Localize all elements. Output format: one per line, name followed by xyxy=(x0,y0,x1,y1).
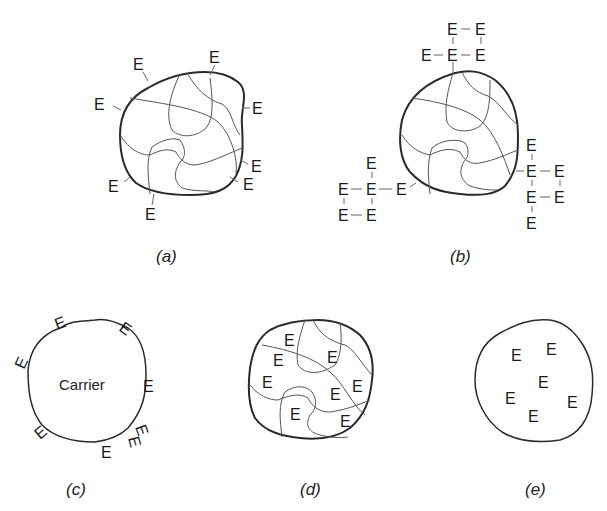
panel-caption: (c) xyxy=(66,480,86,499)
enzyme-label: E xyxy=(421,47,432,64)
enzyme-label: E xyxy=(101,444,112,461)
enzyme-label: E xyxy=(447,21,458,38)
enzyme-label: E xyxy=(209,49,220,66)
enzyme-label: E xyxy=(262,374,273,391)
enzyme-label: E xyxy=(475,21,486,38)
enzyme-label: E xyxy=(133,56,144,73)
panel-d: E E E E E E E E (d) xyxy=(249,320,373,499)
enzyme-label: E xyxy=(338,207,349,224)
panel-caption: (a) xyxy=(156,247,177,266)
enzyme-label: E xyxy=(526,137,537,154)
enzyme-label: E xyxy=(116,319,134,339)
panel-c: Carrier E E E E E E E E (c) xyxy=(11,313,153,499)
enzyme-label: E xyxy=(366,207,377,224)
enzyme-label: E xyxy=(284,332,295,349)
enzyme-aggregate-right: E E E E E E xyxy=(516,137,565,232)
enzyme-label: E xyxy=(554,189,565,206)
enzyme-label: E xyxy=(396,181,407,198)
crosslink-network xyxy=(120,73,242,194)
encapsulated-enzymes: E E E E E E xyxy=(505,341,578,425)
enzyme-aggregate-left: E E E E E E xyxy=(338,155,416,224)
enzyme-label: E xyxy=(511,347,522,364)
enzyme-label: E xyxy=(273,352,284,369)
enzyme-label: E xyxy=(447,47,458,64)
enzyme-label: E xyxy=(327,349,338,366)
panel-caption: (e) xyxy=(525,480,546,499)
panel-b: E E E E E E E E E E E E xyxy=(338,21,565,266)
enzyme-aggregate-top: E E E E E xyxy=(421,21,486,73)
enzyme-label: E xyxy=(31,422,50,442)
enzyme-label: E xyxy=(340,413,351,430)
enzyme-label: E xyxy=(108,178,119,195)
enzyme-label: E xyxy=(366,155,377,172)
panel-e: E E E E E E (e) xyxy=(475,320,593,499)
enzyme-label: E xyxy=(554,163,565,180)
enzyme-label: E xyxy=(475,47,486,64)
enzyme-label: E xyxy=(526,189,537,206)
carrier-outline xyxy=(400,71,518,195)
enzyme-label: E xyxy=(94,96,105,113)
panel-caption: (d) xyxy=(300,480,321,499)
enzyme-label: E xyxy=(528,408,539,425)
enzyme-label: E xyxy=(567,394,578,411)
enzyme-label: E xyxy=(526,215,537,232)
enzyme-label: E xyxy=(366,181,377,198)
panel-a: E E E E E E E E (a) xyxy=(94,49,263,266)
enzyme-label: E xyxy=(143,378,154,395)
enzyme-label: E xyxy=(290,406,301,423)
enzyme-label: E xyxy=(505,390,516,407)
enzyme-label: E xyxy=(546,341,557,358)
enzyme-label: E xyxy=(125,434,144,449)
enzyme-label: E xyxy=(243,176,254,193)
enzyme-label: E xyxy=(538,374,549,391)
crosslink-network xyxy=(402,72,518,194)
enzyme-label: E xyxy=(252,100,263,117)
enzyme-label: E xyxy=(338,181,349,198)
enzyme-label: E xyxy=(145,206,156,223)
enzyme-label: E xyxy=(330,386,341,403)
carrier-outline xyxy=(120,72,244,195)
enzyme-label: E xyxy=(352,378,363,395)
carrier-label: Carrier xyxy=(59,376,105,393)
panel-caption: (b) xyxy=(450,247,471,266)
enzyme-label: E xyxy=(526,163,537,180)
immobilization-diagram: E E E E E E E E (a) xyxy=(0,0,607,511)
enzyme-label: E xyxy=(251,158,262,175)
